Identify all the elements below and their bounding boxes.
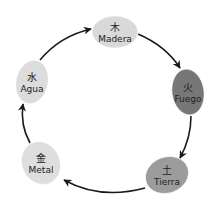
arrow-madera-to-fuego: [138, 34, 180, 68]
node-metal: 金 Metal: [14, 135, 67, 191]
arrow-agua-to-madera: [40, 29, 91, 60]
fuego-character: 火: [183, 82, 193, 93]
node-agua: 水 Agua: [12, 57, 52, 107]
arrow-metal-to-agua: [22, 104, 30, 143]
madera-label: Madera: [98, 34, 132, 44]
tierra-label: Tierra: [153, 177, 180, 187]
madera-character: 木: [110, 22, 120, 33]
agua-label: Agua: [20, 84, 43, 94]
node-madera: 木 Madera: [92, 16, 138, 48]
node-tierra: 土 Tierra: [140, 151, 194, 200]
metal-label: Metal: [29, 165, 54, 175]
metal-character: 金: [36, 152, 46, 164]
agua-character: 水: [27, 72, 37, 83]
node-fuego: 火 Fuego: [169, 67, 207, 117]
five-elements-cycle-diagram: 木 Madera 火 Fuego 土 Tierra 金 Metal 水 Agua: [0, 0, 218, 208]
arrow-tierra-to-metal: [64, 180, 145, 193]
tierra-character: 土: [162, 164, 172, 176]
fuego-label: Fuego: [174, 94, 202, 104]
arrow-fuego-to-tierra: [180, 116, 191, 158]
